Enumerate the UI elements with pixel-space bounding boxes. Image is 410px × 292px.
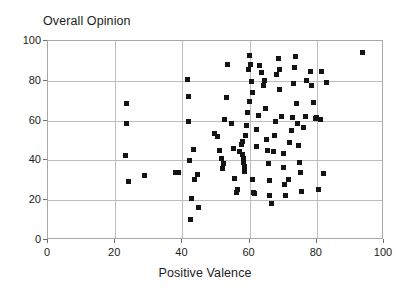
data-point [282,182,287,187]
data-point [318,117,323,122]
data-point [267,193,272,198]
data-point [244,123,249,128]
data-point [267,178,272,183]
y-tick-label: 0 [35,233,41,245]
x-axis-label: Positive Valence [0,266,410,280]
data-point [294,101,299,106]
data-point [271,149,276,154]
data-point [276,56,281,61]
y-tick-label: 100 [23,34,41,46]
data-point [254,144,259,149]
data-point [261,83,266,88]
x-tick-mark [47,239,48,243]
data-point [292,65,297,70]
y-tick-mark [43,40,47,41]
data-point [224,95,229,100]
data-point [124,121,129,126]
data-point [265,148,270,153]
data-point [277,67,282,72]
data-point [187,158,192,163]
data-point [185,77,190,82]
data-point [293,54,298,59]
y-axis-tick-labels: 020406080100 [12,40,41,239]
data-point [281,151,286,156]
data-point [220,166,225,171]
data-point [277,87,282,92]
gridline-horizontal [48,81,382,82]
scatter-plot-figure: Overall Opinion 020406080100 02040608010… [0,0,410,292]
y-tick-mark [43,199,47,200]
y-tick-label: 60 [29,114,41,126]
data-point [256,113,261,118]
data-point [124,101,129,106]
chart-title: Overall Opinion [43,14,131,28]
data-point [222,117,227,122]
data-point [264,137,269,142]
data-point [246,67,251,72]
x-tick-label: 40 [175,246,187,258]
data-point [240,139,245,144]
x-tick-mark [181,239,182,243]
data-point [217,148,222,153]
gridline-vertical [115,41,116,238]
data-point [176,170,181,175]
data-point [283,193,288,198]
y-tick-label: 40 [29,153,41,165]
data-point [319,69,324,74]
data-point [298,170,303,175]
data-point [123,153,128,158]
data-point [360,50,365,55]
data-point [235,187,240,192]
data-point [259,70,264,75]
data-point [273,119,278,124]
data-point [247,53,252,58]
data-point [286,177,291,182]
data-point [254,127,259,132]
data-point [250,177,255,182]
plot-area [47,40,383,239]
x-tick-mark [249,239,250,243]
data-point [188,217,193,222]
data-point [257,63,262,68]
data-point [324,80,329,85]
data-point [308,69,313,74]
data-point [321,171,326,176]
data-point [247,99,252,104]
data-point [272,133,277,138]
gridline-horizontal [48,200,382,201]
data-point [196,205,201,210]
gridline-vertical [182,41,183,238]
data-point [266,161,271,166]
data-point [279,114,284,119]
x-tick-mark [114,239,115,243]
y-tick-mark [43,159,47,160]
y-tick-label: 80 [29,74,41,86]
data-point [287,140,292,145]
data-point [250,90,255,95]
data-point [297,160,302,165]
data-point [291,81,296,86]
data-point [274,72,279,77]
data-point [243,133,248,138]
data-point [249,79,254,84]
data-point [281,165,286,170]
data-point [311,100,316,105]
data-point [252,191,257,196]
data-point [191,147,196,152]
data-point [301,125,306,130]
x-tick-mark [316,239,317,243]
data-point [269,201,274,206]
x-tick-label: 0 [44,246,50,258]
data-point [262,78,267,83]
data-point [215,134,220,139]
x-tick-label: 80 [310,246,322,258]
data-point [225,62,230,67]
data-point [316,187,321,192]
gridline-horizontal [48,160,382,161]
data-point [289,128,294,133]
data-point [126,179,131,184]
data-point [229,121,234,126]
data-point [186,119,191,124]
gridline-vertical [317,41,318,238]
data-point [231,146,236,151]
